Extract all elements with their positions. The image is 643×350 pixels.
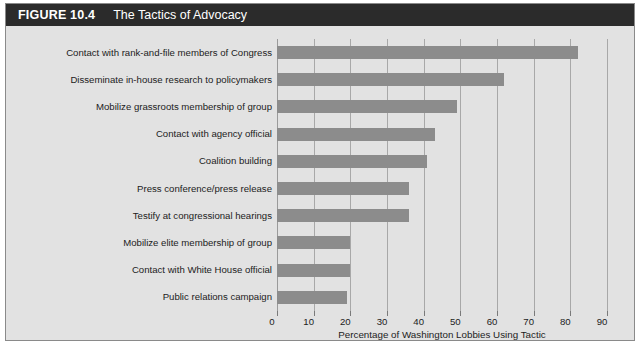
category-label: Disseminate in-house research to policym… (14, 74, 272, 86)
plot-region (277, 39, 607, 311)
figure-container: FIGURE 10.4 The Tactics of Advocacy Cont… (0, 0, 643, 350)
category-label: Contact with agency official (14, 128, 272, 140)
x-tick-label: 0 (269, 316, 274, 327)
category-label: Press conference/press release (14, 183, 272, 195)
bar-row (277, 93, 607, 120)
bar (277, 236, 350, 249)
bar-row (277, 39, 607, 66)
bar-row (277, 148, 607, 175)
bar-series (277, 39, 607, 311)
bar-row (277, 66, 607, 93)
bar (277, 100, 457, 113)
bar-row (277, 229, 607, 256)
x-axis-title: Percentage of Washington Lobbies Using T… (277, 329, 607, 340)
bar-row (277, 121, 607, 148)
bar (277, 46, 578, 59)
category-label: Contact with White House official (14, 264, 272, 276)
gridline-90 (607, 39, 608, 311)
figure-header-bar: FIGURE 10.4 The Tactics of Advocacy (6, 4, 634, 26)
chart-area: Contact with rank-and-file members of Co… (6, 26, 634, 340)
x-tick-label: 40 (413, 316, 424, 327)
x-tick-label: 90 (597, 316, 608, 327)
x-tick-label: 50 (450, 316, 461, 327)
bar-row (277, 175, 607, 202)
x-tick-label: 80 (560, 316, 571, 327)
bar (277, 209, 409, 222)
x-tick-label: 60 (487, 316, 498, 327)
bar (277, 291, 347, 304)
bar (277, 155, 427, 168)
figure-title: The Tactics of Advocacy (113, 8, 247, 22)
bar-row (277, 257, 607, 284)
x-tick-label: 30 (377, 316, 388, 327)
x-tick-label: 10 (303, 316, 314, 327)
bar (277, 128, 435, 141)
bar (277, 264, 350, 277)
category-axis-labels: Contact with rank-and-file members of Co… (14, 39, 272, 311)
category-label: Public relations campaign (14, 291, 272, 303)
bar-row (277, 202, 607, 229)
category-label: Coalition building (14, 155, 272, 167)
x-axis-tick-labels: 0102030405060708090 (277, 316, 607, 330)
category-label: Mobilize grassroots membership of group (14, 101, 272, 113)
category-label: Testify at congressional hearings (14, 210, 272, 222)
x-tick-label: 20 (340, 316, 351, 327)
bar (277, 73, 504, 86)
bar-row (277, 284, 607, 311)
category-label: Contact with rank-and-file members of Co… (14, 47, 272, 59)
bar (277, 182, 409, 195)
figure-panel: FIGURE 10.4 The Tactics of Advocacy Cont… (5, 3, 635, 341)
figure-number: FIGURE 10.4 (18, 8, 95, 22)
x-tick-label: 70 (523, 316, 534, 327)
category-label: Mobilize elite membership of group (14, 237, 272, 249)
